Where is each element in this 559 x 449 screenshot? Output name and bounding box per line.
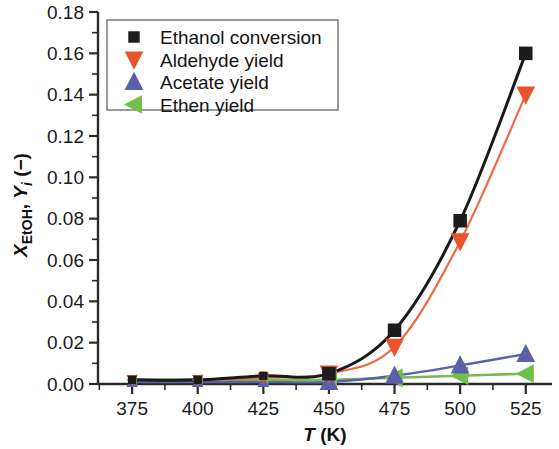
svg-text:XEtOH, Yi (−): XEtOH, Yi (−) [10, 153, 35, 258]
x-tick-label: 450 [313, 398, 345, 419]
y-tick-label: 0.02 [47, 332, 84, 353]
svg-text:T (K): T (K) [303, 424, 346, 445]
legend-item-label: Acetate yield [160, 72, 269, 93]
square-marker [128, 376, 136, 384]
triangle-left-marker [516, 364, 534, 383]
y-tick-label: 0.06 [47, 250, 84, 271]
legend-item-label: Aldehyde yield [160, 50, 284, 71]
square-marker [259, 372, 267, 380]
chart-figure: 0.000.020.040.060.080.100.120.140.160.18… [0, 0, 559, 449]
square-marker [519, 47, 533, 61]
triangle-down-marker [385, 339, 404, 357]
square-marker [128, 31, 139, 42]
x-tick-label: 425 [247, 398, 279, 419]
legend-item-label: Ethanol conversion [160, 27, 322, 48]
x-tick-label: 475 [379, 398, 411, 419]
y-tick-label: 0.04 [47, 291, 84, 312]
x-tick-label: 375 [116, 398, 148, 419]
y-tick-label: 0.16 [47, 43, 84, 64]
square-marker [194, 376, 202, 384]
legend-item-label: Ethen yield [160, 95, 254, 116]
y-tick-label: 0.10 [47, 167, 84, 188]
square-marker [322, 367, 336, 381]
y-tick-label: 0.14 [47, 84, 84, 105]
x-axis-title: T (K) [303, 424, 346, 445]
y-tick-label: 0.00 [47, 374, 84, 395]
triangle-down-marker [451, 233, 470, 251]
y-axis-title: XEtOH, Yi (−) [10, 153, 35, 258]
series-marker-group [126, 87, 535, 387]
y-tick-label: 0.18 [47, 2, 84, 23]
square-marker [453, 214, 467, 228]
chart-canvas: 0.000.020.040.060.080.100.120.140.160.18… [0, 0, 559, 449]
y-tick-label: 0.08 [47, 208, 84, 229]
x-axis-tick-labels: 375400425450475500525 [116, 398, 541, 419]
x-tick-label: 525 [510, 398, 542, 419]
x-tick-label: 500 [444, 398, 476, 419]
x-tick-label: 400 [182, 398, 214, 419]
triangle-up-marker [516, 344, 535, 362]
square-marker [388, 324, 402, 338]
chart-legend: Ethanol conversionAldehyde yieldAcetate … [107, 20, 338, 116]
triangle-down-marker [516, 87, 535, 105]
y-axis-tick-labels: 0.000.020.040.060.080.100.120.140.160.18 [47, 2, 84, 395]
y-tick-label: 0.12 [47, 126, 84, 147]
